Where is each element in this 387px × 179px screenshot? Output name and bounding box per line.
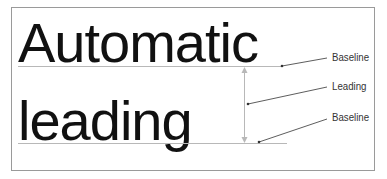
leader-baseline-bottom bbox=[259, 119, 327, 142]
leader-leading bbox=[248, 87, 327, 104]
label-baseline-bottom: Baseline bbox=[332, 111, 369, 123]
arrowhead-up-icon bbox=[242, 67, 248, 73]
arrowhead-down-icon bbox=[242, 137, 248, 143]
annotation-lines bbox=[0, 0, 387, 179]
leader-baseline-top bbox=[282, 58, 327, 66]
label-leading: Leading bbox=[332, 80, 366, 92]
label-baseline-top: Baseline bbox=[332, 51, 369, 63]
